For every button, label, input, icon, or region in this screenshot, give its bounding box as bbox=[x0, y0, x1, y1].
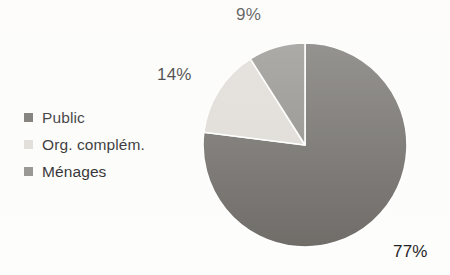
legend-swatch-menages bbox=[24, 167, 33, 176]
pie-graphic bbox=[202, 42, 408, 248]
chart-legend: Public Org. complém. Ménages bbox=[24, 104, 184, 185]
data-label-menages: 9% bbox=[236, 6, 261, 23]
legend-swatch-public bbox=[24, 113, 33, 122]
legend-item-public[interactable]: Public bbox=[24, 104, 184, 131]
pie-slices bbox=[203, 43, 407, 247]
pie-chart-figure: Public Org. complém. Ménages 9% 14% 77% bbox=[0, 0, 450, 275]
legend-label-org-complem: Org. complém. bbox=[42, 137, 145, 153]
legend-item-menages[interactable]: Ménages bbox=[24, 158, 184, 185]
legend-label-menages: Ménages bbox=[42, 164, 106, 180]
legend-item-org-complem[interactable]: Org. complém. bbox=[24, 131, 184, 158]
legend-label-public: Public bbox=[42, 110, 85, 126]
pie-svg bbox=[202, 42, 408, 248]
legend-swatch-org-complem bbox=[24, 140, 33, 149]
data-label-org-complem: 14% bbox=[157, 66, 192, 83]
data-label-public: 77% bbox=[393, 243, 428, 260]
